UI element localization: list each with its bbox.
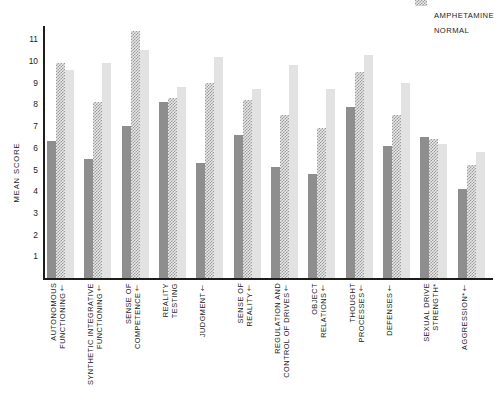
- bar: [346, 107, 355, 278]
- bar: [65, 70, 74, 278]
- chart-legend: AMPHETAMINE NORMAL: [415, 0, 494, 36]
- bar-group: [196, 22, 223, 278]
- y-tick-10: 10: [0, 56, 38, 66]
- bar: [131, 31, 140, 278]
- bar: [102, 63, 111, 278]
- y-tick-6: 6: [0, 143, 38, 153]
- legend-swatch-icon-0: [415, 0, 427, 6]
- bar: [93, 102, 102, 278]
- bar: [159, 102, 168, 278]
- y-tick-3: 3: [0, 208, 38, 218]
- bar: [84, 159, 93, 278]
- y-tick-7: 7: [0, 121, 38, 131]
- y-tick-11: 11: [0, 34, 38, 44]
- x-axis-line: [43, 278, 493, 280]
- bar: [177, 87, 186, 278]
- bar: [271, 167, 280, 278]
- y-tick-1: 1: [0, 251, 38, 261]
- bar: [280, 115, 289, 278]
- legend-swatch-icon-amphetamine: [415, 10, 427, 21]
- bar-group: [47, 22, 74, 278]
- bar: [289, 65, 298, 278]
- bar: [168, 98, 177, 278]
- legend-swatch-icon-normal: [415, 25, 427, 36]
- x-axis-labels: AUTONOMOUS FUNCTIONING†SYNTHETIC INTEGRA…: [45, 283, 493, 405]
- x-axis-label: DEFENSES†: [386, 283, 395, 336]
- x-axis-label: REALITY TESTING: [162, 283, 179, 318]
- x-axis-label: SENSE OF COMPETENCE†: [125, 283, 142, 349]
- bar: [56, 63, 65, 278]
- bar: [326, 89, 335, 278]
- bar: [429, 139, 438, 278]
- bar: [383, 146, 392, 278]
- bar: [476, 152, 485, 278]
- bar: [317, 128, 326, 278]
- bar: [364, 55, 373, 278]
- y-tick-5: 5: [0, 165, 38, 175]
- bar-group: [84, 22, 111, 278]
- bar: [122, 126, 131, 278]
- bar-group: [383, 22, 410, 278]
- bar: [243, 100, 252, 278]
- bar: [438, 144, 447, 279]
- plot-area: [45, 22, 493, 278]
- bar-group: [308, 22, 335, 278]
- legend-item-normal: NORMAL: [415, 25, 494, 36]
- bar-group: [271, 22, 298, 278]
- bar: [355, 72, 364, 278]
- bar: [420, 137, 429, 278]
- bar: [214, 57, 223, 278]
- legend-item-0: [415, 0, 494, 6]
- bar: [308, 174, 317, 278]
- bar-chart: AMPHETAMINE NORMAL MEAN SCORE 1234567891…: [0, 0, 500, 405]
- bar: [47, 141, 56, 278]
- legend-label-amphetamine: AMPHETAMINE: [434, 10, 494, 21]
- bar: [401, 83, 410, 278]
- x-axis-label: SENSE OF REALITY†: [237, 283, 254, 326]
- legend-item-amphetamine: AMPHETAMINE: [415, 10, 494, 21]
- x-axis-label: OBJECT RELATIONS†: [311, 283, 328, 338]
- bar-group: [234, 22, 261, 278]
- x-axis-label: SEXUAL DRIVE STRENGTH*: [423, 283, 440, 342]
- bar-group: [458, 22, 485, 278]
- legend-label-normal: NORMAL: [434, 25, 469, 36]
- y-tick-9: 9: [0, 78, 38, 88]
- bar: [392, 115, 401, 278]
- x-axis-label: REGULATION AND CONTROL OF DRIVES†: [274, 283, 291, 378]
- bar: [467, 165, 476, 278]
- bar: [252, 89, 261, 278]
- bar-group: [159, 22, 186, 278]
- x-axis-label: AGGRESSION*†: [461, 283, 470, 350]
- x-axis-label: JUDGMENT†: [199, 283, 208, 337]
- bar-group: [122, 22, 149, 278]
- bar-group: [420, 22, 447, 278]
- bar: [196, 163, 205, 278]
- x-axis-label: THOUGHT PROCESSES†: [349, 283, 366, 342]
- bar: [140, 50, 149, 278]
- bar: [205, 83, 214, 278]
- bar-group: [346, 22, 373, 278]
- y-tick-2: 2: [0, 230, 38, 240]
- bar: [234, 135, 243, 278]
- y-tick-8: 8: [0, 99, 38, 109]
- x-axis-label: SYNTHETIC INTEGRATIVE FUNCTIONING†: [87, 283, 104, 385]
- bar: [458, 189, 467, 278]
- x-axis-label: AUTONOMOUS FUNCTIONING†: [50, 283, 67, 349]
- y-tick-4: 4: [0, 186, 38, 196]
